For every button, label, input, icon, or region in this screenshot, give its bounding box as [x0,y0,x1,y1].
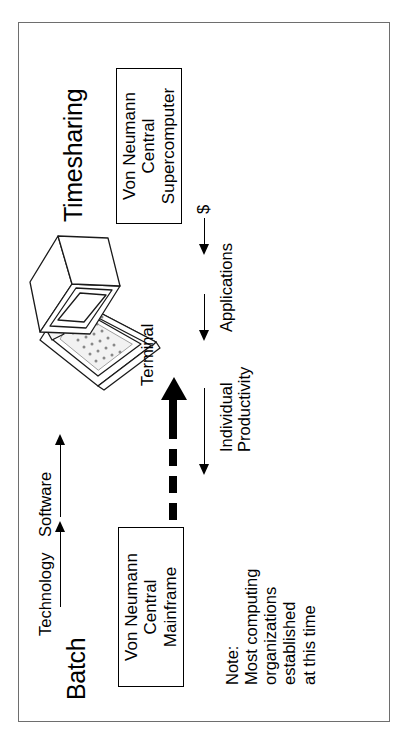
arrow-software-head-icon [55,434,65,445]
arrow-technology-head-icon [55,521,65,532]
arrow-individual-productivity-line [204,388,205,464]
note-line-3: organizations [261,569,280,685]
label-individual-productivity-line2: Productivity [235,367,253,452]
scanned-page: Batch Von Neumann Central Mainframe Note… [0,0,406,740]
note-line-1: Note: [223,569,242,685]
label-terminal: Terminal [138,324,157,386]
arrow-applications-line [204,294,205,330]
label-individual-productivity: Individual Productivity [217,367,253,452]
arrow-individual-productivity-head-icon [199,464,209,475]
label-individual-productivity-line1: Individual [217,367,235,452]
section-title-timesharing: Timesharing [61,89,86,222]
diagram-canvas: Batch Von Neumann Central Mainframe Note… [18,22,390,722]
label-applications-text: Applications [217,243,235,332]
note-line-2: Most computing [242,569,261,685]
label-money: $ [194,205,213,214]
box-supercomputer-line3: Supercomputer [159,88,178,204]
box-supercomputer-line1: Von Neumann [120,92,139,200]
note-block: Note: Most computing organizations estab… [223,569,319,685]
label-software-text: Software [36,472,54,537]
note-line-4: established [280,569,299,685]
arrow-money-head-icon [199,244,209,255]
arrow-money-line [204,218,205,244]
box-mainframe-line1: Von Neumann [122,553,141,661]
label-terminal-text: Terminal [138,324,156,386]
arrow-software-line [60,441,61,517]
label-technology-text: Technology [36,553,54,636]
transition-arrow-shaft [169,398,177,428]
box-central-supercomputer: Von Neumann Central Supercomputer [116,68,182,224]
box-central-mainframe: Von Neumann Central Mainframe [118,527,184,687]
label-applications: Applications [217,243,236,332]
label-software: Software [36,472,55,537]
arrow-technology-line [60,527,61,607]
slide-frame: Batch Von Neumann Central Mainframe Note… [18,22,390,722]
arrow-applications-head-icon [199,330,209,341]
section-title-batch: Batch [64,638,89,700]
box-mainframe-line3: Mainframe [161,567,180,647]
label-money-text: $ [194,205,212,214]
note-line-5: at this time [300,569,319,685]
label-technology: Technology [36,553,55,636]
transition-barrier-dashed [169,428,177,520]
box-mainframe-line2: Central [141,580,160,635]
box-supercomputer-line2: Central [139,119,158,174]
